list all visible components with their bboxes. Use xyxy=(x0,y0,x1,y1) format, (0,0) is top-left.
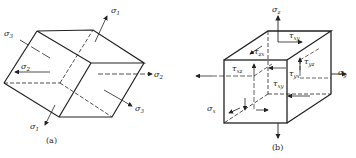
sigma-x-front-arrow xyxy=(229,108,240,113)
caption-b: (b) xyxy=(272,143,283,152)
label-sigma-x: σx xyxy=(207,104,216,114)
label-sigma3-right: σ3 xyxy=(135,104,144,114)
label-tau-zx: τzx xyxy=(254,47,265,57)
label-tau-yz: τyz xyxy=(304,57,315,68)
label-sigma1-bottom: σ1 xyxy=(30,122,39,132)
label-sigma-y: σy xyxy=(338,68,347,79)
stress-diagram: σ1 σ3 σ2 σ2 σ3 σ1 (a) xyxy=(0,0,356,158)
label-tau-xy-top: τxy xyxy=(289,31,301,42)
label-tau-yx: τyx xyxy=(289,69,301,80)
label-tau-xz: τxz xyxy=(232,64,243,74)
caption-a: (a) xyxy=(46,136,57,145)
label-sigma2-right: σ2 xyxy=(154,70,163,80)
label-sigma3-left: σ3 xyxy=(4,29,13,39)
sigma3-right-arrow xyxy=(104,90,132,106)
label-sigma1-top: σ1 xyxy=(111,6,120,16)
label-sigma-z: σz xyxy=(272,5,280,15)
sigma3-left-arrow xyxy=(20,40,50,58)
figure-b-cube xyxy=(196,16,346,138)
sigma1-bottom-arrow xyxy=(45,105,55,125)
label-tau-xy-front: τxy xyxy=(273,79,285,90)
label-sigma2-left: σ2 xyxy=(21,62,30,72)
figure-b-labels: σz τxy τzx τxz τyz τyx τxy σy σx (b) xyxy=(207,5,347,152)
